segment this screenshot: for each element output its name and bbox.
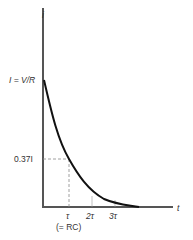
rc-discharge-diagram: i t I = V/R 0.37I τ 2τ 3τ (= RC): [0, 0, 193, 240]
tick-label-3tau: 3τ: [109, 211, 118, 221]
y-axis-label: i: [42, 10, 45, 20]
label-initial-current: I = V/R: [9, 75, 35, 85]
label-037I: 0.37I: [14, 154, 33, 164]
tau-note: (= RC): [56, 222, 81, 232]
decay-curve: [44, 80, 139, 207]
tick-label-2tau: 2τ: [85, 211, 95, 221]
tick-label-tau: τ: [66, 211, 70, 221]
x-axis-label: t: [177, 203, 180, 213]
